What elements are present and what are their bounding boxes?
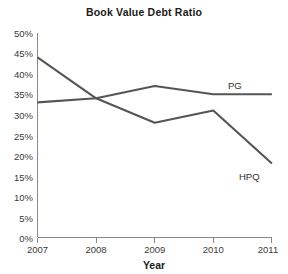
x-axis-title: Year — [143, 259, 165, 271]
x-tick-label-2008: 2008 — [86, 244, 107, 255]
y-tick-label-25: 25% — [14, 131, 34, 142]
y-tick-label-15: 15% — [14, 172, 34, 183]
y-tick-label-30: 30% — [14, 110, 34, 121]
y-tick-label-50: 50% — [14, 28, 34, 39]
y-tick-label-5: 5% — [19, 213, 33, 224]
series-label-pg: PG — [228, 80, 242, 91]
x-tick-label-2009: 2009 — [144, 244, 165, 255]
y-tick-label-10: 10% — [14, 192, 34, 203]
series-line-hpq — [38, 57, 272, 163]
y-tick-label-0: 0% — [19, 233, 33, 244]
x-tick-label-2011: 2011 — [258, 244, 278, 255]
y-tick-label-35: 35% — [14, 89, 34, 100]
y-tick-label-45: 45% — [14, 48, 34, 59]
chart-container: Book Value Debt Ratio 50% 45% 40% 35% 30… — [0, 0, 288, 274]
y-tick-label-40: 40% — [14, 69, 34, 80]
x-tick-label-2010: 2010 — [203, 244, 224, 255]
y-tick-label-20: 20% — [14, 151, 34, 162]
x-tick-label-2007: 2007 — [27, 244, 48, 255]
line-chart-plot: 50% 45% 40% 35% 30% 25% 20% 15% 10% 5% 0… — [0, 0, 288, 274]
series-label-hpq: HPQ — [239, 171, 260, 182]
